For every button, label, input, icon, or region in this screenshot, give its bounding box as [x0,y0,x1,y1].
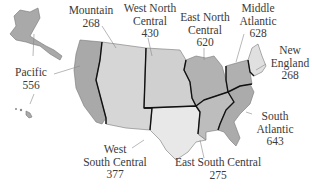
region-name: West [82,143,148,156]
us-census-divisions-map: Pacific 556 Mountain 268 West North Cent… [0,0,312,194]
label-east-south-central: East South Central 275 [166,156,270,181]
region-name: Pacific [0,66,62,79]
label-south-atlantic: South Atlantic 643 [248,110,302,148]
label-new-england: New England 268 [266,44,312,82]
region-alaska [10,8,62,60]
region-value: 643 [248,135,302,148]
region-name: South Central [82,156,148,169]
label-middle-atlantic: Middle Atlantic 628 [230,2,286,40]
region-hawaii-islet [20,109,22,111]
region-value: 620 [172,36,238,49]
region-value: 377 [82,168,148,181]
region-name: South [248,110,302,123]
region-value: 275 [166,169,270,182]
region-value: 268 [266,69,312,82]
label-pacific: Pacific 556 [0,66,62,91]
region-name: New [266,44,312,57]
region-value: 628 [230,27,286,40]
label-east-north-central: East North Central 620 [172,11,238,49]
label-mountain: Mountain 268 [60,4,122,29]
region-name: East South Central [166,156,270,169]
leader-line-pacific-hawaii [30,94,34,104]
region-value: 556 [0,79,62,92]
leader-line-pacific-alaska [33,34,34,56]
region-name: Atlantic [230,15,286,28]
region-name: England [266,57,312,70]
region-value: 268 [60,17,122,30]
region-name: Atlantic [248,123,302,136]
region-name: Mountain [60,4,122,17]
label-west-south-central: West South Central 377 [82,143,148,181]
region-new-england [248,44,266,76]
region-hawaii-islet [15,108,17,110]
region-name: Central [172,24,238,37]
region-name: Middle [230,2,286,15]
region-name: East North [172,11,238,24]
region-hawaii [26,111,32,118]
